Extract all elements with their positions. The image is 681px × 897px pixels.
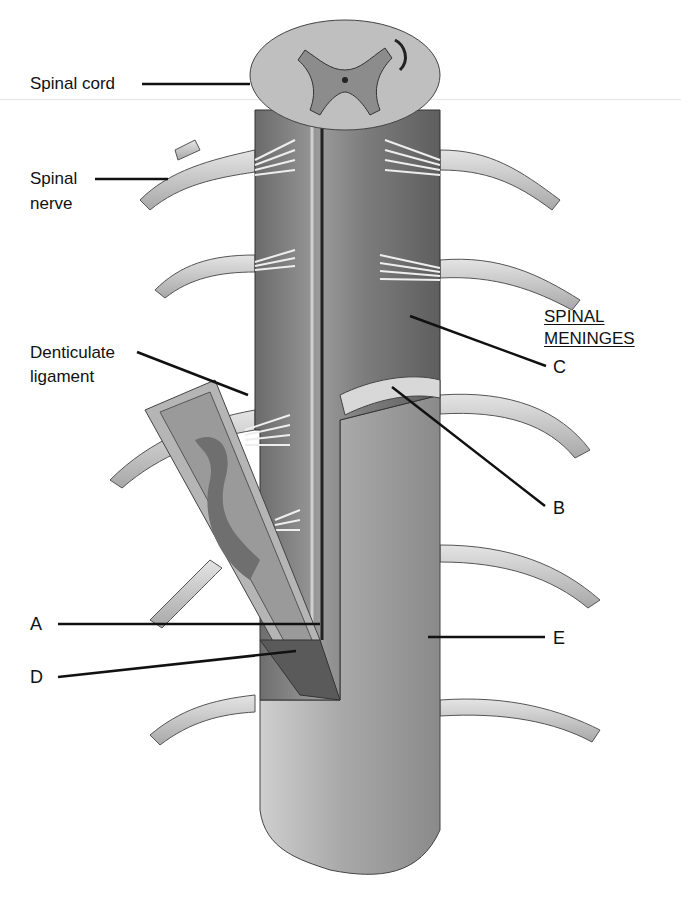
label-denticulate-line2: ligament [30, 367, 94, 387]
cord-cross-section [250, 20, 440, 130]
label-d: D [30, 667, 43, 687]
label-a: A [30, 614, 42, 634]
label-denticulate-line1: Denticulate [30, 343, 115, 363]
label-spinal-nerve-line1: Spinal [30, 169, 77, 189]
spinal-nerves-right [440, 150, 600, 742]
meninges-heading-line2: MENINGES [544, 328, 635, 350]
label-spinal-nerve-line2: nerve [30, 194, 73, 214]
anatomy-illustration [0, 0, 681, 897]
label-e: E [553, 628, 565, 648]
label-b: B [553, 498, 565, 518]
label-spinal-cord: Spinal cord [30, 74, 115, 94]
meninges-heading-line1: SPINAL [544, 306, 604, 328]
spinal-meninges-diagram: Spinal cord Spinal nerve Denticulate lig… [0, 0, 681, 897]
label-c: C [553, 357, 566, 377]
